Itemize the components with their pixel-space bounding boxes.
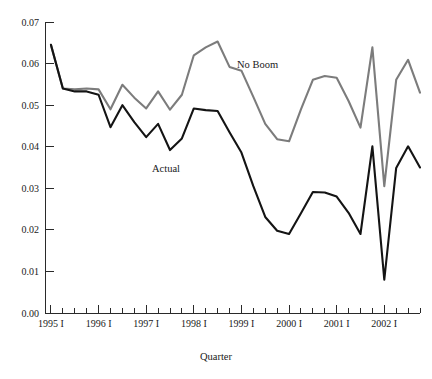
- chart-container: 0.000.010.020.030.040.050.060.07 1995 I1…: [0, 0, 432, 379]
- y-tick-label: 0.02: [22, 224, 40, 235]
- y-tick-label: 0.03: [22, 183, 40, 194]
- y-tick-label: 0.00: [22, 308, 40, 319]
- x-axis-tick-marks: [51, 305, 420, 313]
- series-annotations: No BoomActual: [152, 59, 278, 174]
- x-axis-title: Quarter: [200, 351, 233, 362]
- x-tick-label: 2000 I: [276, 318, 302, 329]
- y-tick-label: 0.07: [22, 17, 40, 28]
- y-tick-label: 0.01: [22, 266, 40, 277]
- data-series-group: [51, 42, 420, 280]
- x-tick-label: 1996 I: [86, 318, 112, 329]
- y-axis-tick-labels: 0.000.010.020.030.040.050.060.07: [22, 17, 40, 319]
- x-axis-tick-labels: 1995 I1996 I1997 I1998 I1999 I2000 I2001…: [38, 318, 397, 329]
- y-tick-label: 0.05: [22, 100, 40, 111]
- x-tick-label: 2001 I: [324, 318, 350, 329]
- line-chart: 0.000.010.020.030.040.050.060.07 1995 I1…: [0, 0, 432, 379]
- series-annotation-actual: Actual: [152, 163, 180, 174]
- y-tick-label: 0.04: [22, 141, 40, 152]
- x-tick-label: 1999 I: [229, 318, 255, 329]
- x-tick-label: 1995 I: [38, 318, 64, 329]
- y-tick-label: 0.06: [22, 58, 40, 69]
- series-line-actual: [51, 45, 420, 280]
- x-tick-label: 1998 I: [181, 318, 207, 329]
- series-annotation-no-boom: No Boom: [237, 59, 278, 70]
- y-axis-tick-marks: [45, 22, 54, 313]
- x-tick-label: 2002 I: [371, 318, 397, 329]
- x-tick-label: 1997 I: [133, 318, 159, 329]
